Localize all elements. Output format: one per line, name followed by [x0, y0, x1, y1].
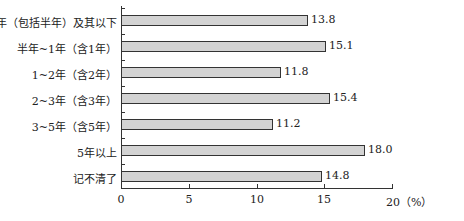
x-tick: [257, 184, 258, 189]
category-label: 记不清了: [73, 170, 117, 186]
y-tick: [121, 60, 125, 61]
bar: [121, 67, 281, 78]
value-label: 15.4: [333, 91, 358, 104]
value-label: 15.1: [329, 39, 354, 52]
y-tick: [121, 112, 125, 113]
bar: [121, 171, 322, 182]
x-tick: [392, 184, 393, 189]
value-label: 11.8: [284, 65, 309, 78]
bar: [121, 145, 365, 156]
y-tick: [121, 138, 125, 139]
y-tick: [121, 86, 125, 87]
x-tick: [324, 184, 325, 189]
bar: [121, 93, 330, 104]
value-label: 13.8: [311, 13, 336, 26]
y-tick: [121, 34, 125, 35]
category-label: 3~5年（含5年）: [32, 118, 117, 134]
x-tick-label: 5: [186, 193, 193, 206]
value-label: 18.0: [368, 143, 393, 156]
y-tick: [121, 8, 125, 9]
bar: [121, 119, 273, 130]
y-tick: [121, 164, 125, 165]
x-tick: [189, 184, 190, 189]
bar-chart: 半年（包括半年）及其以下 半年~1年（含1年） 1~2年（含2年） 2~3年（含…: [0, 0, 464, 221]
category-label: 2~3年（含3年）: [32, 92, 117, 108]
x-tick-label: 10: [250, 193, 264, 206]
x-tick-label: 0: [118, 193, 125, 206]
x-tick: [121, 184, 122, 189]
value-label: 14.8: [325, 169, 350, 182]
category-label: 5年以上: [77, 144, 117, 160]
bar: [121, 15, 308, 26]
x-tick-label: 15: [317, 193, 331, 206]
category-label: 半年~1年（含1年）: [17, 40, 117, 56]
category-label: 1~2年（含2年）: [32, 66, 117, 82]
value-label: 11.2: [276, 117, 301, 130]
bar: [121, 41, 326, 52]
x-tick-label: 20（%）: [386, 193, 432, 209]
category-label: 半年（包括半年）及其以下: [0, 14, 117, 30]
category-labels: 半年（包括半年）及其以下 半年~1年（含1年） 1~2年（含2年） 2~3年（含…: [0, 0, 117, 221]
